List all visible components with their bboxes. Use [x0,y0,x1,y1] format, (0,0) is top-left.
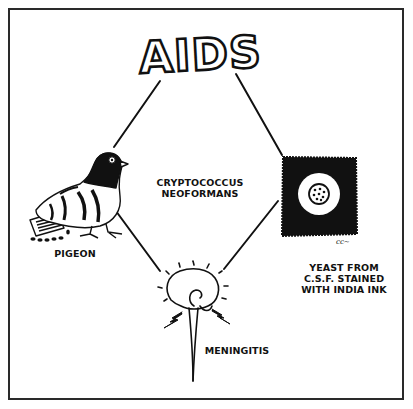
svg-text:AIDS: AIDS [138,26,263,83]
yeast-label-line1: YEAST FROM [298,262,390,273]
artist-signature: cc~ [336,238,350,246]
yeast-label-line2: C.S.F. STAINED [298,273,390,284]
diamond-edges [113,74,282,271]
yeast-label: YEAST FROM C.S.F. STAINED WITH INDIA INK [298,262,390,295]
edge-aids-yeast [236,74,282,155]
yeast-label-line3: WITH INDIA INK [298,284,390,295]
brain-spinal-cord-illustration [158,261,230,381]
center-organism-label: CRYPTOCOCCUS NEOFORMANS [152,177,248,199]
edge-aids-pigeon [114,81,160,147]
pigeon-illustration [30,153,128,242]
edge-yeast-meningitis [224,201,278,269]
meningitis-label: MENINGITIS [204,345,270,356]
center-label-line2: NEOFORMANS [152,188,248,199]
aids-title-lettering: AIDS [138,26,263,83]
pigeon-label: PIGEON [50,248,100,259]
india-ink-yeast-illustration [282,157,357,236]
center-label-line1: CRYPTOCOCCUS [152,177,248,188]
edge-pigeon-meningitis [113,207,160,271]
